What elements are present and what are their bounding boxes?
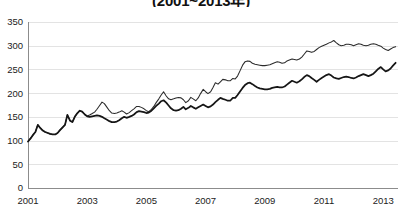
svg-text:350: 350 bbox=[7, 16, 23, 27]
chart-container: (2001~2013年) 350300250200150100500 20012… bbox=[0, 0, 402, 212]
lower-index-line bbox=[28, 63, 396, 142]
y-axis-tick-labels: 350300250200150100500 bbox=[7, 16, 23, 193]
svg-text:2009: 2009 bbox=[254, 195, 275, 206]
upper-index-line bbox=[28, 41, 396, 142]
svg-text:150: 150 bbox=[7, 111, 23, 122]
series-group bbox=[28, 41, 396, 142]
svg-text:2013: 2013 bbox=[373, 195, 394, 206]
svg-text:2003: 2003 bbox=[77, 195, 98, 206]
svg-text:300: 300 bbox=[7, 40, 23, 51]
svg-text:50: 50 bbox=[12, 159, 23, 170]
svg-text:0: 0 bbox=[18, 182, 23, 193]
svg-text:2005: 2005 bbox=[136, 195, 157, 206]
line-chart-plot: 350300250200150100500 200120032005200720… bbox=[0, 0, 402, 212]
svg-text:2011: 2011 bbox=[314, 195, 334, 206]
svg-text:200: 200 bbox=[7, 88, 23, 99]
svg-text:2001: 2001 bbox=[17, 195, 38, 206]
svg-text:100: 100 bbox=[7, 135, 23, 146]
svg-text:250: 250 bbox=[7, 64, 23, 75]
gridlines-group bbox=[28, 23, 398, 165]
svg-text:2007: 2007 bbox=[195, 195, 216, 206]
x-axis-tick-labels: 2001200320052007200920112013 bbox=[17, 195, 393, 206]
